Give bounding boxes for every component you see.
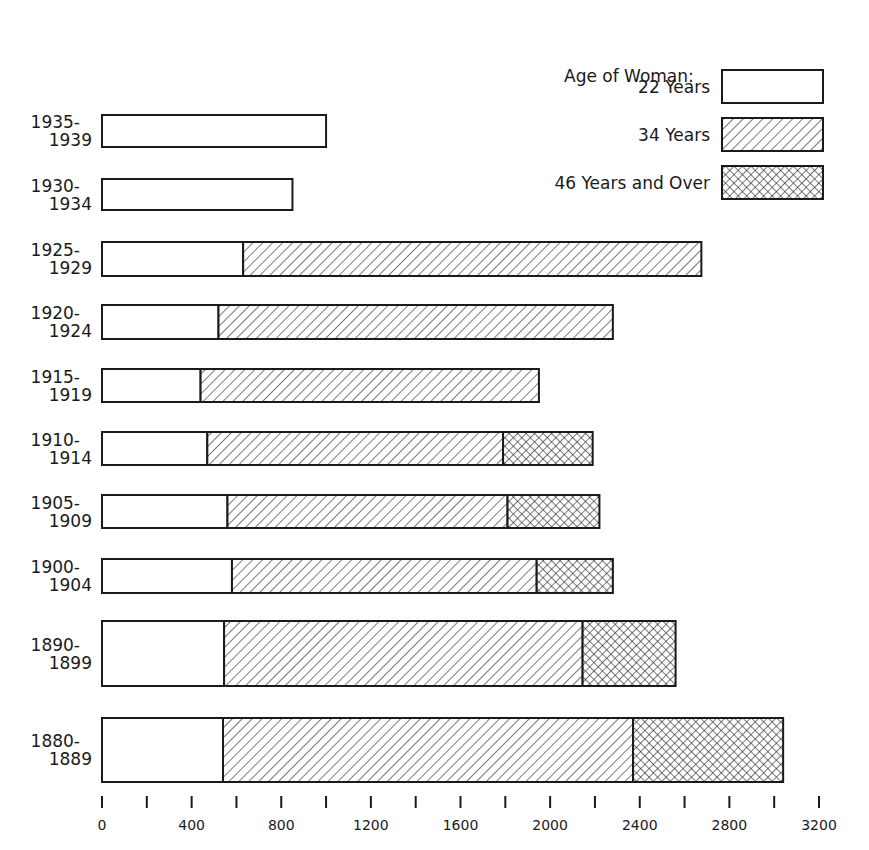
category-label-bottom: 1929 — [49, 258, 92, 278]
y-axis-labels: 1935-19391930-19341925-19291920-19241915… — [31, 112, 92, 769]
category-label-bottom: 1934 — [49, 194, 92, 214]
bar-segment — [102, 369, 201, 402]
bar-segment — [633, 718, 783, 782]
legend-swatch — [722, 166, 823, 199]
legend-label: 34 Years — [638, 125, 710, 145]
bar-segment — [102, 718, 223, 782]
bar-row — [102, 432, 593, 465]
category-label-top: 1880- — [31, 731, 80, 751]
category-label-top: 1935- — [31, 112, 80, 132]
bar-row — [102, 369, 539, 402]
bar-row — [102, 305, 613, 339]
bar-segment — [508, 495, 600, 528]
category-label-top: 1910- — [31, 430, 80, 450]
bar-row — [102, 495, 599, 528]
x-tick-label: 400 — [178, 817, 205, 833]
category-label-top: 1915- — [31, 367, 80, 387]
bar-segment — [102, 179, 292, 210]
category-label-top: 1930- — [31, 176, 80, 196]
category-label-top: 1905- — [31, 493, 80, 513]
bar-segment — [102, 621, 224, 686]
legend-swatch — [722, 70, 823, 103]
x-tick-label: 3200 — [801, 817, 837, 833]
category-label-bottom: 1909 — [49, 511, 92, 531]
bar-row — [102, 242, 701, 276]
bar-segment — [224, 621, 583, 686]
x-tick-label: 0 — [98, 817, 107, 833]
x-tick-label: 2800 — [712, 817, 748, 833]
category-label-bottom: 1899 — [49, 653, 92, 673]
x-tick-label: 2400 — [622, 817, 658, 833]
legend-label: 22 Years — [638, 77, 710, 97]
bar-segment — [102, 305, 219, 339]
bar-segment — [219, 305, 613, 339]
x-axis: 0400800120016002000240028003200 — [98, 796, 837, 833]
bars — [102, 115, 783, 782]
category-label-bottom: 1924 — [49, 321, 92, 341]
bar-segment — [223, 718, 633, 782]
bar-segment — [243, 242, 701, 276]
bar-segment — [201, 369, 539, 402]
bar-row — [102, 718, 783, 782]
bar-row — [102, 179, 292, 210]
legend-swatch — [722, 118, 823, 151]
category-label-bottom: 1904 — [49, 575, 92, 595]
bar-segment — [102, 495, 227, 528]
bar-segment — [207, 432, 503, 465]
bar-segment — [102, 242, 243, 276]
x-tick-label: 1600 — [443, 817, 479, 833]
bar-segment — [232, 559, 537, 593]
x-tick-label: 2000 — [532, 817, 568, 833]
category-label-bottom: 1919 — [49, 385, 92, 405]
bar-segment — [102, 432, 207, 465]
category-label-top: 1890- — [31, 635, 80, 655]
bar-row — [102, 115, 326, 147]
category-label-top: 1900- — [31, 557, 80, 577]
x-tick-label: 800 — [268, 817, 295, 833]
stacked-bar-chart: Age of Woman:22 Years34 Years46 Years an… — [0, 0, 869, 850]
bar-segment — [102, 559, 232, 593]
category-label-top: 1920- — [31, 303, 80, 323]
category-label-bottom: 1889 — [49, 749, 92, 769]
bar-row — [102, 621, 676, 686]
legend: Age of Woman:22 Years34 Years46 Years an… — [554, 66, 823, 199]
x-tick-label: 1200 — [353, 817, 389, 833]
bar-row — [102, 559, 613, 593]
bar-segment — [227, 495, 507, 528]
bar-segment — [102, 115, 326, 147]
category-label-bottom: 1939 — [49, 130, 92, 150]
legend-label: 46 Years and Over — [554, 173, 710, 193]
bar-segment — [583, 621, 676, 686]
category-label-bottom: 1914 — [49, 448, 92, 468]
category-label-top: 1925- — [31, 240, 80, 260]
bar-segment — [537, 559, 613, 593]
bar-segment — [503, 432, 593, 465]
